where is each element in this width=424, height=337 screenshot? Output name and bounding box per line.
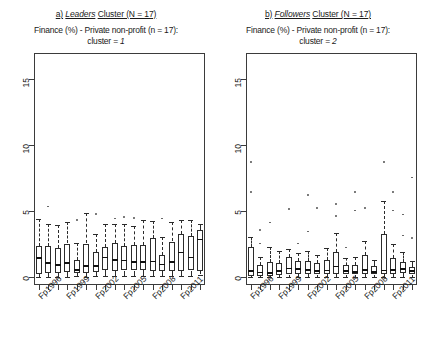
y-tick-label-leaders-0: 0: [21, 276, 31, 302]
panel-followers-title: b) Followers Cluster (N = 17): [212, 9, 424, 19]
y-tick-label-leaders-3: 15: [21, 78, 31, 104]
panel-followers-subtitle-line1: Finance (%) - Private non-profit (n = 17…: [212, 25, 424, 36]
panel-leaders-subtitle-line1: Finance (%) - Private non-profit (n = 17…: [0, 25, 212, 36]
panel-followers-title-cluster-word: Followers: [275, 9, 310, 19]
panel-leaders-title-cluster-word: Leaders: [65, 9, 95, 19]
panel-leaders-subtitle: Finance (%) - Private non-profit (n = 17…: [0, 25, 212, 47]
plot-area-leaders: 051015Fp1996Fp1999Fp2002Fp2005Fp2008Fp20…: [34, 53, 205, 285]
median-line: [197, 239, 203, 241]
panel-leaders: a) Leaders Cluster (N = 17) Finance (%) …: [0, 0, 212, 337]
boxplot-followers-Fp2013: [246, 53, 417, 285]
panel-followers-cluster-value: 2: [332, 36, 337, 46]
panel-leaders-titles: a) Leaders Cluster (N = 17) Finance (%) …: [0, 0, 212, 47]
median-line: [409, 270, 415, 272]
whisker-cap-lower: [198, 275, 203, 276]
y-tick-label-leaders-2: 10: [21, 144, 31, 170]
plot-area-followers: 051015Fp1996Fp1999Fp2002Fp2005Fp2008Fp20…: [246, 53, 417, 285]
outlier-point-1: [411, 237, 413, 239]
panel-followers: b) Followers Cluster (N = 17) Finance (%…: [212, 0, 424, 337]
y-tick-label-followers-3: 15: [233, 78, 243, 104]
x-tick-mark-followers-17: [412, 285, 413, 290]
x-tick-mark-leaders-5: [86, 285, 87, 290]
whisker-cap-lower: [410, 277, 415, 278]
y-tick-label-followers-2: 10: [233, 144, 243, 170]
outlier-point-0: [411, 177, 413, 179]
x-tick-mark-followers-11: [355, 285, 356, 290]
panel-followers-title-suffix: Cluster (N = 17): [312, 9, 371, 19]
boxplot-leaders-Fp2013: [34, 53, 205, 285]
panel-followers-titles: b) Followers Cluster (N = 17) Finance (%…: [212, 0, 424, 47]
box-iqr: [197, 230, 203, 271]
y-tick-label-followers-1: 5: [233, 210, 243, 236]
whisker-cap-upper: [198, 224, 203, 225]
panel-leaders-cluster-value: 1: [120, 36, 125, 46]
x-tick-mark-leaders-17: [200, 285, 201, 290]
panel-followers-cluster-prefix: cluster =: [299, 36, 332, 46]
x-tick-mark-leaders-11: [143, 285, 144, 290]
y-tick-label-followers-0: 0: [233, 276, 243, 302]
panel-leaders-subtitle-line2: cluster = 1: [0, 36, 212, 47]
whisker-cap-upper: [410, 261, 415, 262]
y-tick-label-leaders-1: 5: [21, 210, 31, 236]
panel-followers-subtitle: Finance (%) - Private non-profit (n = 17…: [212, 25, 424, 47]
panel-leaders-title-suffix: Cluster (N = 17): [98, 9, 157, 19]
panel-leaders-cluster-prefix: cluster =: [87, 36, 120, 46]
panel-leaders-title-letter: a): [56, 9, 63, 19]
panel-followers-subtitle-line2: cluster = 2: [212, 36, 424, 47]
panel-leaders-title: a) Leaders Cluster (N = 17): [0, 9, 212, 19]
panel-followers-title-letter: b): [265, 9, 272, 19]
x-tick-mark-followers-5: [298, 285, 299, 290]
figure-root: { "figure": { "panels": [ { "letter": "a…: [0, 0, 424, 337]
